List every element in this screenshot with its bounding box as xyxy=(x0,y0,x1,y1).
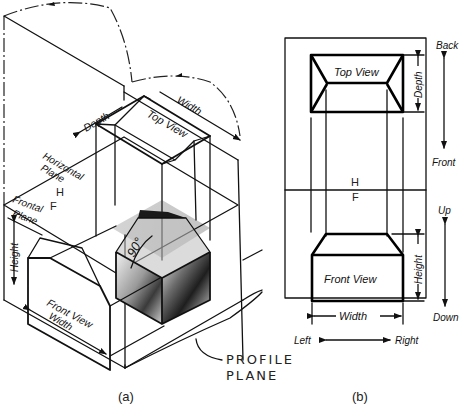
h-plane-marker: H xyxy=(351,176,359,188)
profile-plane-curve xyxy=(243,250,262,260)
front-view-outline xyxy=(312,234,403,301)
f-plane-marker: F xyxy=(50,200,57,212)
back-label: Back xyxy=(436,40,459,51)
horizontal-plane-rotation-arc xyxy=(4,3,132,82)
width-top-label: Width xyxy=(175,93,204,117)
front-label: Front xyxy=(432,157,457,168)
top-view-label: Top View xyxy=(334,66,380,78)
down-label: Down xyxy=(433,312,459,323)
depth-label: Depth xyxy=(413,71,424,98)
panel-a-caption: (a) xyxy=(118,389,134,404)
width-label: Width xyxy=(339,310,367,322)
top-view-label: Top View xyxy=(145,107,191,140)
height-label: Height xyxy=(9,242,20,272)
panel-b-caption: (b) xyxy=(352,389,368,404)
front-view-top-bevel xyxy=(28,238,100,286)
h-plane-marker: H xyxy=(56,186,64,198)
panel-a-glass-box: 90° Front View Height Width Depth Width … xyxy=(4,2,294,404)
projector-line xyxy=(110,326,164,356)
height-label: Height xyxy=(413,254,424,284)
front-view-label: Front View xyxy=(324,273,377,285)
right-label: Right xyxy=(395,335,420,346)
panel-b-unfolded-views: H F Top View Depth Front View Height Wid xyxy=(285,38,459,404)
f-plane-marker: F xyxy=(352,191,359,203)
profile-plane-label-line2: PLANE xyxy=(226,368,278,383)
up-label: Up xyxy=(438,205,451,216)
profile-plane-leader xyxy=(196,339,222,360)
rotated-plane-top-edge xyxy=(4,16,124,86)
profile-plane-label-line1: PROFILE xyxy=(226,352,294,367)
profile-plane-right-edge xyxy=(238,160,243,360)
top-view-bevel-lines xyxy=(311,55,403,112)
projection-diagram: 90° Front View Height Width Depth Width … xyxy=(0,0,472,411)
left-label: Left xyxy=(294,335,312,346)
